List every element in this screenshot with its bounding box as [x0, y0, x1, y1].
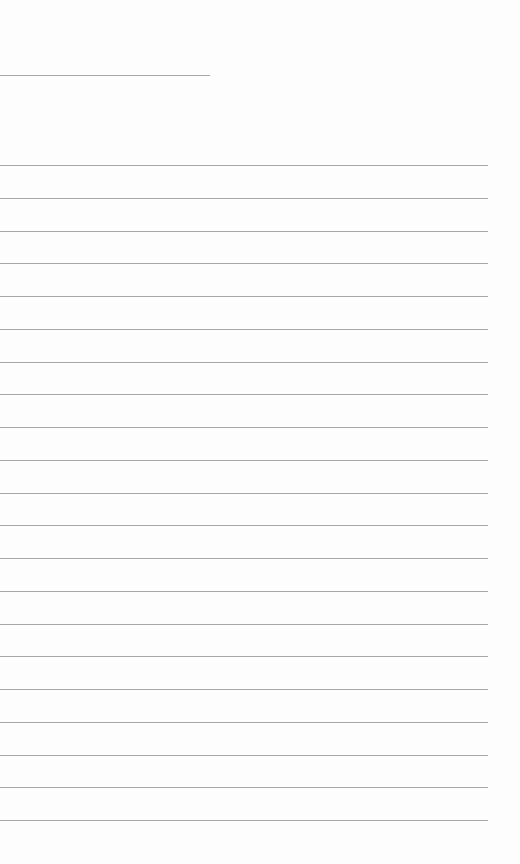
ruled-line — [0, 722, 488, 723]
ruled-line — [0, 689, 488, 690]
ruled-line — [0, 755, 488, 756]
ruled-line — [0, 787, 488, 788]
ruled-line — [0, 165, 488, 166]
ruled-line — [0, 820, 488, 821]
ruled-line — [0, 329, 488, 330]
ruled-line — [0, 362, 488, 363]
ruled-line — [0, 427, 488, 428]
ruled-line — [0, 591, 488, 592]
ruled-line — [0, 558, 488, 559]
lined-page — [0, 0, 520, 864]
ruled-line — [0, 525, 488, 526]
ruled-line — [0, 624, 488, 625]
ruled-line — [0, 231, 488, 232]
ruled-line — [0, 263, 488, 264]
ruled-line — [0, 656, 488, 657]
ruled-line — [0, 198, 488, 199]
ruled-line — [0, 460, 488, 461]
ruled-line — [0, 394, 488, 395]
ruled-line — [0, 296, 488, 297]
header-rule-line — [0, 75, 210, 76]
ruled-line — [0, 493, 488, 494]
